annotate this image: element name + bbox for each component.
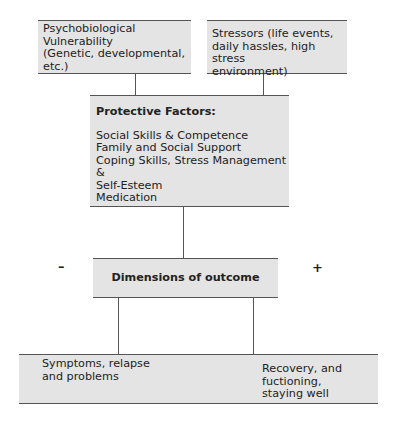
connector-vulnerability xyxy=(135,74,136,95)
protective-factor-item: Medication xyxy=(96,192,289,205)
protective-factor-item: Coping Skills, Stress Management & xyxy=(96,155,289,180)
protective-factors-box: Protective Factors: Social Skills & Comp… xyxy=(90,95,289,207)
stressors-line: daily hassles, high stress xyxy=(212,41,347,66)
vulnerability-line: etc.) xyxy=(43,61,191,74)
stressors-line: Stressors (life events, xyxy=(212,28,347,41)
positive-outcome-line: staying well xyxy=(262,388,342,401)
stressors-line: environment) xyxy=(212,66,347,79)
negative-outcome-line: and problems xyxy=(42,371,150,384)
connector-positive xyxy=(253,298,254,354)
vulnerability-box: Psychobiological Vulnerability (Genetic,… xyxy=(38,20,191,74)
protective-factors-title: Protective Factors: xyxy=(96,106,289,119)
negative-outcome: Symptoms, relapse and problems xyxy=(42,358,150,383)
positive-outcome: Recovery, and fuctioning, staying well xyxy=(262,363,342,401)
vulnerability-line: Psychobiological xyxy=(43,23,191,36)
connector-protective-outcome xyxy=(183,207,184,258)
outcome-title: Dimensions of outcome xyxy=(111,272,259,285)
protective-factor-item: Family and Social Support xyxy=(96,142,289,155)
stressors-box: Stressors (life events, daily hassles, h… xyxy=(207,20,347,74)
positive-outcome-line: Recovery, and xyxy=(262,363,342,376)
results-box: Symptoms, relapse and problems Recovery,… xyxy=(19,354,378,404)
negative-outcome-line: Symptoms, relapse xyxy=(42,358,150,371)
vulnerability-line: (Genetic, developmental, xyxy=(43,48,191,61)
connector-negative xyxy=(118,298,119,354)
plus-sign: + xyxy=(312,260,323,275)
minus-sign: – xyxy=(58,259,65,274)
outcome-box: Dimensions of outcome xyxy=(93,258,278,298)
connector-stressors xyxy=(263,74,264,95)
